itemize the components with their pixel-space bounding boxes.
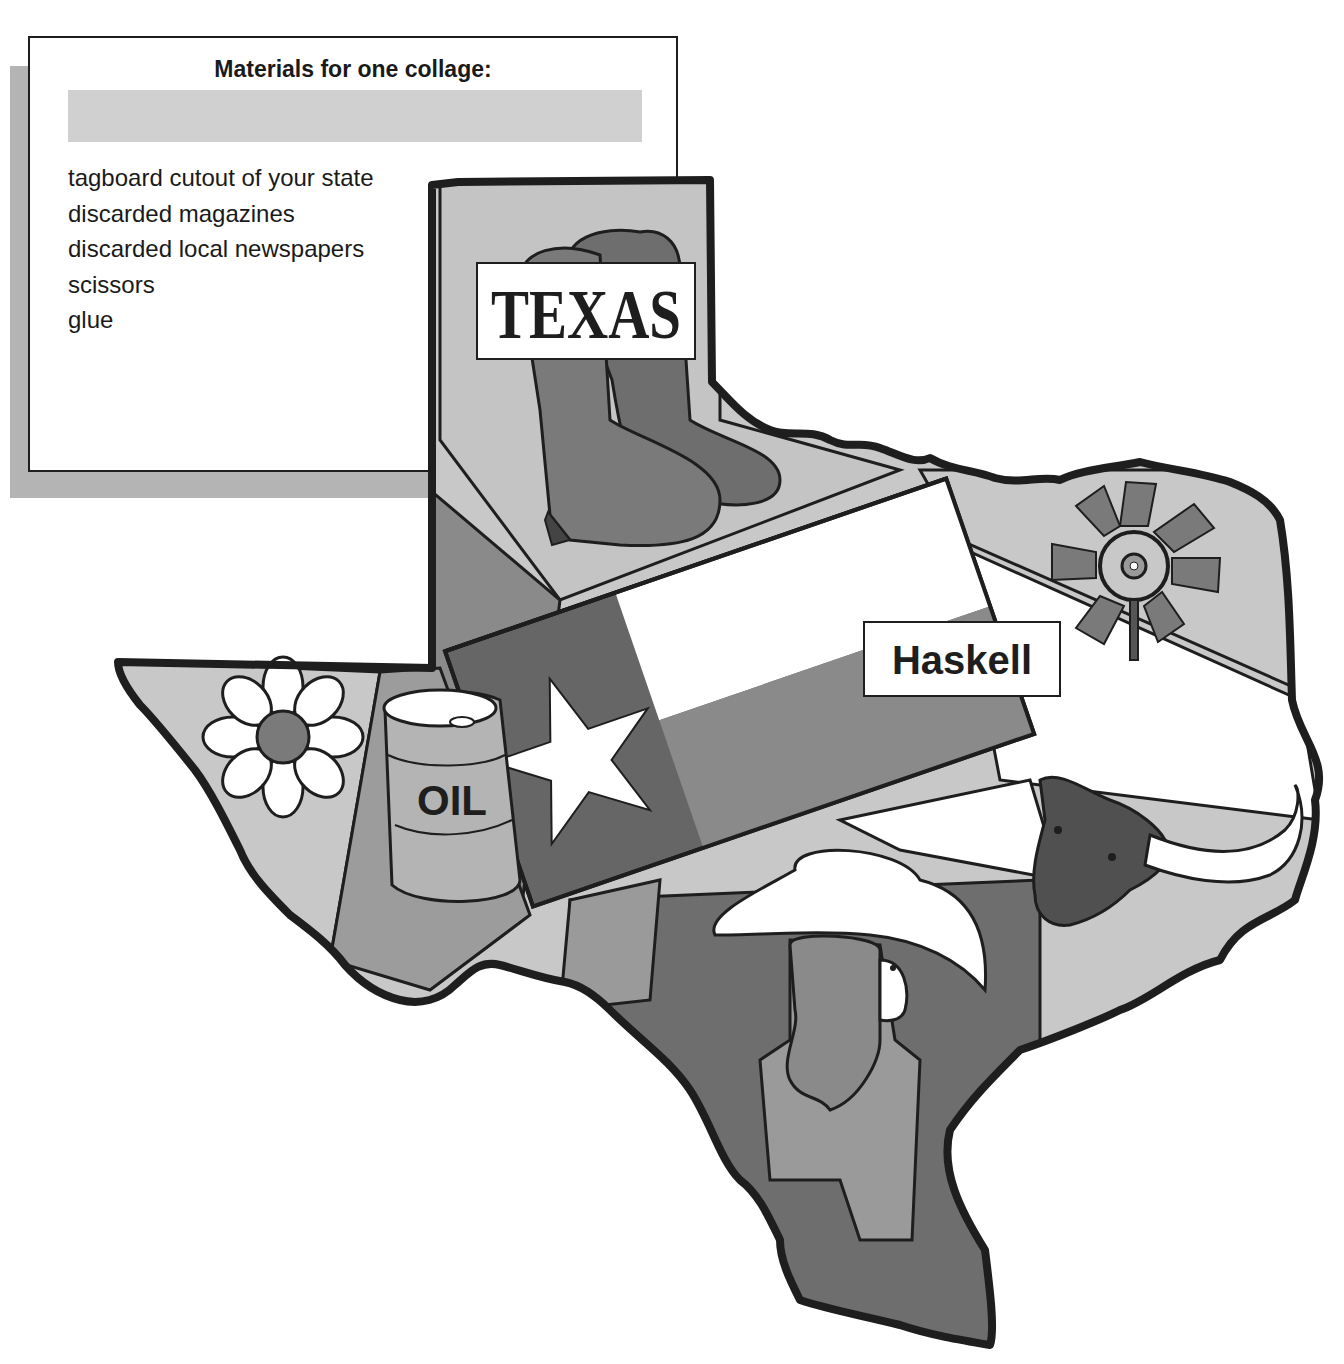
- oil-barrel-icon: OIL: [384, 690, 520, 901]
- oil-barrel-text: OIL: [417, 777, 487, 824]
- texas-sign: TEXAS: [477, 263, 695, 359]
- daisy-flower-icon: [203, 657, 363, 817]
- haskell-sign-text: Haskell: [892, 638, 1032, 682]
- haskell-sign: Haskell: [864, 622, 1060, 696]
- texas-sign-text: TEXAS: [491, 276, 681, 353]
- texas-collage: TEXAS Haskell: [0, 0, 1344, 1364]
